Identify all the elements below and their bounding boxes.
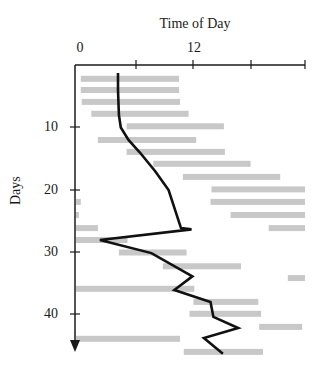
bar-day-7-seg-0 [153,161,250,167]
bar-day-11-seg-0 [76,212,79,218]
y-axis-arrow-icon [70,340,80,352]
bar-day-16-seg-0 [288,275,305,281]
bar-day-2-seg-0 [82,99,180,105]
bar-day-8-seg-0 [183,174,280,180]
bar-day-1-seg-0 [81,87,179,93]
bar-day-3-seg-0 [91,111,188,117]
bar-day-4-seg-0 [127,123,224,129]
bar-day-0-seg-0 [81,76,179,82]
bar-day-21-seg-0 [76,336,180,342]
bar-day-5-seg-0 [98,137,196,143]
bar-day-12-seg-0 [76,225,98,231]
bar-day-10-seg-1 [211,199,306,205]
bar-day-12-seg-1 [269,225,305,231]
bar-day-9-seg-0 [212,186,306,192]
bar-day-22-seg-0 [184,349,263,355]
bars-group [76,76,305,355]
bar-day-19-seg-0 [190,311,262,317]
bar-day-10-seg-0 [76,199,81,205]
chart-plot-area [0,0,328,375]
bar-day-11-seg-1 [231,212,305,218]
bar-day-20-seg-0 [259,324,302,330]
